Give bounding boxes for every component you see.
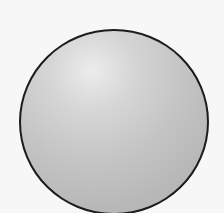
sphere-description: Shaded gray sphere with black outline [21, 31, 22, 32]
shaded-sphere: Shaded gray sphere with black outline [19, 29, 209, 213]
diagram-canvas: Shaded gray sphere with black outline [0, 0, 224, 213]
